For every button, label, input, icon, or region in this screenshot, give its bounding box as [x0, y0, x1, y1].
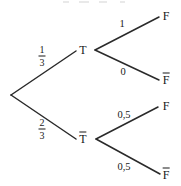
fraction-denominator: 3: [39, 57, 46, 68]
f-bar-overbar: F: [163, 73, 170, 86]
node-label-t: T: [79, 44, 86, 56]
scan-artifact: [79, 1, 89, 3]
branch-probability-t-to-f: 1: [119, 19, 124, 30]
branch-probability-tbar-to-fbar: 0,5: [117, 162, 130, 173]
fraction-numerator: 1: [39, 45, 46, 56]
branch-probability-tbar-to-f: 0,5: [117, 110, 130, 121]
fraction-denominator: 3: [39, 130, 46, 141]
leaf-label-f-bar-1: F: [163, 73, 170, 86]
scan-artifact: [63, 1, 69, 3]
tree-edges: [11, 17, 160, 174]
leaf-label-f-1: F: [163, 10, 170, 22]
branch-probability-two-thirds: 2 3: [39, 118, 46, 141]
f-bar-overbar: F: [163, 168, 170, 181]
edge-t-to-fbar: [95, 50, 159, 80]
probability-tree-diagram: [0, 0, 181, 186]
leaf-label-f-bar-2: F: [163, 168, 170, 181]
scan-artifact: [99, 1, 107, 3]
scan-artifact: [120, 1, 125, 3]
branch-probability-one-third: 1 3: [39, 45, 46, 68]
branch-probability-t-to-fbar: 0: [120, 67, 125, 78]
fraction-numerator: 2: [39, 118, 46, 129]
node-label-t-bar: T: [79, 132, 86, 145]
edge-t-to-f: [95, 17, 159, 50]
leaf-label-f-2: F: [163, 100, 170, 112]
t-bar-overbar: T: [79, 132, 86, 145]
